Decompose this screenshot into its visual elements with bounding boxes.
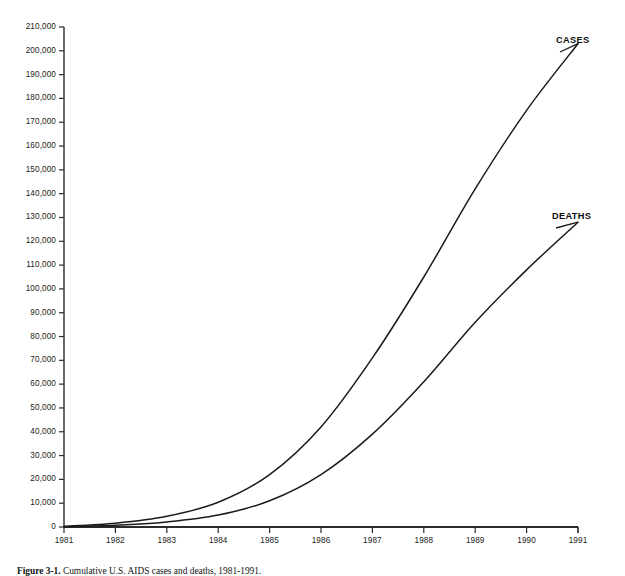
figure-container: 210,000200,000190,000180,000170,000160,0… <box>0 0 625 576</box>
x-axis-tick-label: 1991 <box>558 537 598 545</box>
series-label-deaths: DEATHS <box>552 212 591 221</box>
x-axis-tick-labels: 1981198219831984198519861987198819891990… <box>0 0 625 576</box>
x-axis-tick-label: 1981 <box>44 537 84 545</box>
x-axis-tick-label: 1984 <box>198 537 238 545</box>
series-label-cases: CASES <box>556 36 589 45</box>
x-axis-tick-label: 1982 <box>95 537 135 545</box>
x-axis-tick-label: 1983 <box>147 537 187 545</box>
figure-caption: Figure 3-1. Cumulative U.S. AIDS cases a… <box>17 566 617 576</box>
x-axis-tick-label: 1989 <box>455 537 495 545</box>
x-axis-tick-label: 1985 <box>250 537 290 545</box>
figure-caption-text: Cumulative U.S. AIDS cases and deaths, 1… <box>63 566 261 576</box>
x-axis-tick-label: 1988 <box>404 537 444 545</box>
x-axis-tick-label: 1987 <box>352 537 392 545</box>
figure-caption-number: Figure 3-1. <box>17 566 61 576</box>
x-axis-tick-label: 1986 <box>301 537 341 545</box>
x-axis-tick-label: 1990 <box>507 537 547 545</box>
